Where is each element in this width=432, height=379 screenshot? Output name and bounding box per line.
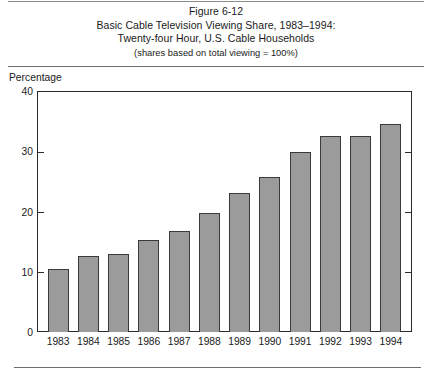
y-tick-label: 20 bbox=[22, 206, 33, 217]
footer-divider-rule bbox=[14, 367, 421, 368]
figure-subtitle: (shares based on total viewing = 100%) bbox=[0, 47, 432, 61]
y-tick-mark-right bbox=[405, 212, 411, 213]
y-axis-caption: Percentage bbox=[9, 72, 62, 83]
x-tick-label-1988: 1988 bbox=[194, 336, 224, 347]
x-tick-label-1989: 1989 bbox=[225, 336, 255, 347]
y-axis-tick-labels: 010203040 bbox=[12, 91, 33, 332]
y-tick-mark-left bbox=[38, 152, 44, 153]
x-tick-label-1985: 1985 bbox=[104, 336, 134, 347]
x-tick-label-1990: 1990 bbox=[255, 336, 285, 347]
figure-title-line-2: Twenty-four Hour, U.S. Cable Households bbox=[0, 32, 432, 46]
title-divider-rule bbox=[8, 66, 424, 67]
y-tick-mark-right bbox=[405, 152, 411, 153]
x-tick-label-1983: 1983 bbox=[43, 336, 73, 347]
y-tick-mark-left bbox=[38, 212, 44, 213]
x-tick-label-1984: 1984 bbox=[73, 336, 103, 347]
y-tick-label: 0 bbox=[27, 327, 33, 338]
y-tick-label: 30 bbox=[22, 146, 33, 157]
x-tick-label-1993: 1993 bbox=[346, 336, 376, 347]
y-tick-label: 40 bbox=[22, 86, 33, 97]
x-axis-tick-labels: 1983198419851986198719881989199019911992… bbox=[37, 336, 412, 347]
y-tick-label: 10 bbox=[22, 266, 33, 277]
figure-title-line-1: Basic Cable Television Viewing Share, 19… bbox=[0, 19, 432, 33]
x-tick-label-1994: 1994 bbox=[376, 336, 406, 347]
figure-number: Figure 6-12 bbox=[0, 5, 432, 19]
x-tick-label-1987: 1987 bbox=[164, 336, 194, 347]
x-tick-label-1991: 1991 bbox=[285, 336, 315, 347]
x-tick-label-1986: 1986 bbox=[134, 336, 164, 347]
y-tick-mark-right bbox=[405, 272, 411, 273]
axis-ticks-layer bbox=[38, 92, 411, 331]
figure-title-block: Figure 6-12 Basic Cable Television Viewi… bbox=[0, 5, 432, 61]
y-tick-mark-left bbox=[38, 272, 44, 273]
x-tick-label-1992: 1992 bbox=[315, 336, 345, 347]
plot-frame bbox=[37, 91, 412, 332]
top-divider-rule bbox=[8, 1, 424, 2]
